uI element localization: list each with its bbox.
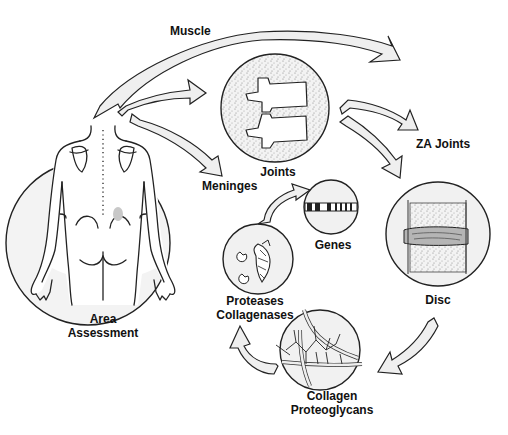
collagen-proteoglycans-node: Collagen Proteoglycans (276, 310, 374, 417)
collagen-circle (280, 310, 360, 390)
assessment-label: Assessment (68, 326, 139, 340)
muscle-label: Muscle (170, 24, 211, 38)
area-label: Area (90, 312, 117, 326)
proteases-label: Proteases (226, 294, 284, 308)
joints-label: Joints (260, 165, 296, 179)
intervertebral-disc-icon (404, 200, 468, 274)
proteases-collagenases-node: Proteases Collagenases (216, 224, 294, 322)
arrow-to-disc (340, 116, 402, 178)
chromosome-icon (305, 203, 357, 211)
proteoglycans-label: Proteoglycans (291, 403, 374, 417)
arrow-to-proteases (230, 326, 278, 374)
collagenases-label: Collagenases (216, 308, 294, 322)
area-assessment-node: Area Assessment (6, 126, 176, 340)
disc-label: Disc (425, 293, 451, 307)
collagen-label: Collagen (307, 389, 358, 403)
disc-node: Disc (386, 182, 490, 307)
arrow-to-genes (258, 184, 310, 224)
joints-node: Joints (221, 54, 329, 179)
za-joints-label: ZA Joints (416, 137, 471, 151)
arrow-to-collagen (378, 318, 438, 374)
genes-node: Genes (304, 180, 358, 252)
pain-area-marker (113, 207, 123, 221)
meninges-label: Meninges (202, 179, 258, 193)
genes-label: Genes (315, 238, 352, 252)
spine-assessment-diagram: Area Assessment Muscle Meninges Joints Z… (0, 0, 508, 435)
